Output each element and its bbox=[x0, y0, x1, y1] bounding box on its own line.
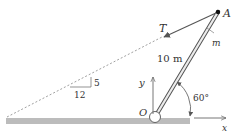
label-point-a: A bbox=[222, 7, 231, 20]
label-slope-rise: 5 bbox=[94, 78, 100, 88]
pin-support bbox=[150, 112, 161, 123]
statics-diagram: A T m 10 m y O 60° x 12 5 bbox=[0, 0, 234, 134]
label-tension: T bbox=[159, 22, 168, 35]
label-axis-x: x bbox=[222, 123, 227, 133]
label-mass: m bbox=[212, 38, 221, 48]
label-length: 10 m bbox=[157, 53, 183, 64]
angle-arc bbox=[177, 82, 191, 116]
label-axis-y: y bbox=[138, 77, 145, 88]
label-angle: 60° bbox=[193, 93, 209, 103]
slope-triangle bbox=[70, 77, 91, 87]
point-a-dot bbox=[216, 10, 220, 14]
ground bbox=[6, 118, 190, 124]
label-point-o: O bbox=[139, 107, 147, 118]
label-slope-run: 12 bbox=[74, 90, 85, 100]
